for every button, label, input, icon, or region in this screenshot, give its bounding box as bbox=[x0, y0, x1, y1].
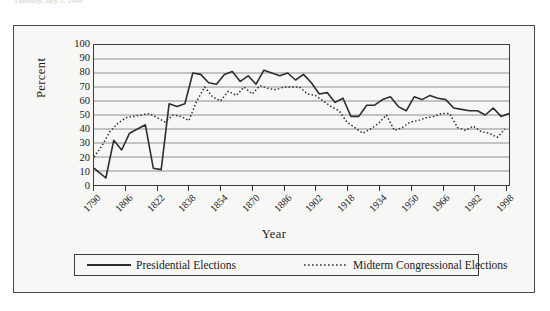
x-tick-label-1806: 1806 bbox=[107, 192, 135, 220]
x-tick-mark-1966 bbox=[443, 186, 444, 191]
x-tick-label-1966: 1966 bbox=[425, 192, 453, 220]
legend-entry-presidential: Presidential Elections bbox=[87, 259, 236, 271]
legend-entry-midterm: Midterm Congressional Elections bbox=[304, 259, 508, 271]
x-tick-label-1934: 1934 bbox=[361, 192, 389, 220]
x-tick-mark-1886 bbox=[284, 186, 285, 191]
x-tick-mark-1998 bbox=[506, 186, 507, 191]
x-tick-label-1854: 1854 bbox=[202, 192, 230, 220]
y-axis-tick-labels: 1009080706050403020100 bbox=[54, 44, 90, 186]
y-tick-label-80: 80 bbox=[80, 67, 91, 77]
legend-label-presidential: Presidential Elections bbox=[136, 259, 236, 271]
y-tick-label-20: 20 bbox=[80, 153, 91, 163]
x-tick-mark-1806 bbox=[125, 186, 126, 191]
y-tick-label-70: 70 bbox=[80, 82, 91, 92]
y-tick-label-10: 10 bbox=[80, 167, 91, 177]
x-tick-label-1982: 1982 bbox=[456, 192, 484, 220]
x-tick-label-1902: 1902 bbox=[298, 192, 326, 220]
y-tick-label-30: 30 bbox=[80, 138, 91, 148]
x-tick-mark-1822 bbox=[157, 186, 158, 191]
data-series-layer bbox=[94, 45, 509, 185]
x-tick-mark-1870 bbox=[252, 186, 253, 191]
x-tick-label-1950: 1950 bbox=[393, 192, 421, 220]
y-axis-title: Percent bbox=[34, 58, 49, 98]
x-tick-mark-1950 bbox=[411, 186, 412, 191]
x-tick-label-1838: 1838 bbox=[171, 192, 199, 220]
x-tick-label-1918: 1918 bbox=[329, 192, 357, 220]
page-header-fragment: Thursday, July 1, 1999 bbox=[14, 0, 82, 5]
x-tick-mark-1902 bbox=[315, 186, 316, 191]
y-tick-label-100: 100 bbox=[74, 39, 90, 49]
y-tick-label-0: 0 bbox=[85, 181, 90, 191]
x-tick-mark-1790 bbox=[93, 186, 94, 191]
figure-frame: Percent 1009080706050403020100 179018061… bbox=[13, 25, 535, 293]
y-tick-label-60: 60 bbox=[80, 96, 91, 106]
x-tick-mark-1838 bbox=[188, 186, 189, 191]
legend-solid-line-icon bbox=[87, 261, 131, 269]
x-tick-label-1998: 1998 bbox=[488, 192, 516, 220]
x-tick-label-1790: 1790 bbox=[75, 192, 103, 220]
x-tick-mark-1854 bbox=[220, 186, 221, 191]
x-tick-mark-1934 bbox=[379, 186, 380, 191]
x-tick-label-1870: 1870 bbox=[234, 192, 262, 220]
y-tick-label-50: 50 bbox=[80, 110, 91, 120]
x-tick-label-1822: 1822 bbox=[139, 192, 167, 220]
x-axis-tick-labels: 1790180618221838185418701886190219181934… bbox=[93, 192, 510, 226]
x-axis-title: Year bbox=[14, 227, 534, 242]
plot-area bbox=[93, 44, 510, 186]
x-tick-label-1886: 1886 bbox=[266, 192, 294, 220]
x-tick-mark-1918 bbox=[347, 186, 348, 191]
legend-label-midterm: Midterm Congressional Elections bbox=[353, 259, 508, 271]
chart-legend: Presidential Elections Midterm Congressi… bbox=[74, 254, 479, 276]
y-tick-label-40: 40 bbox=[80, 124, 91, 134]
x-tick-mark-1982 bbox=[474, 186, 475, 191]
y-tick-label-90: 90 bbox=[80, 53, 91, 63]
legend-dotted-line-icon bbox=[304, 261, 348, 269]
